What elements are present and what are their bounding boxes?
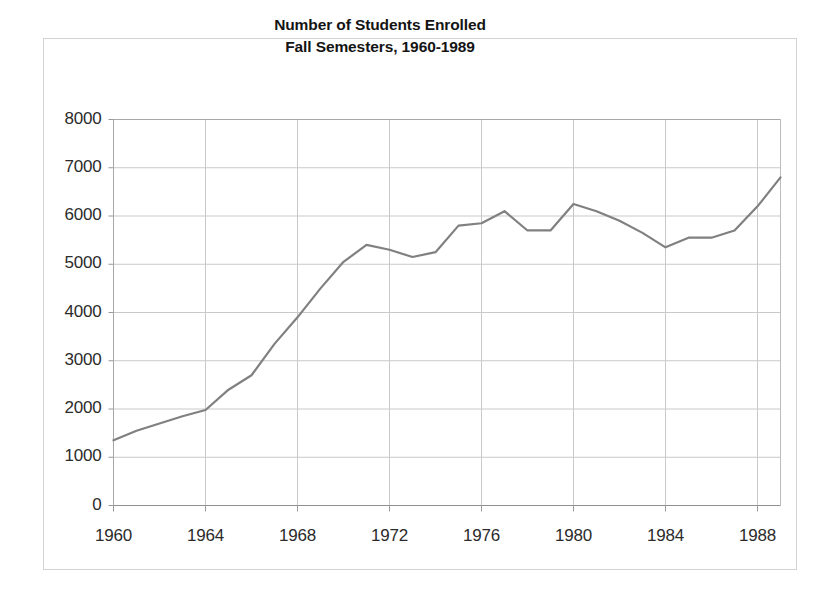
y-tick-label: 5000 <box>40 253 102 273</box>
y-tick-label: 0 <box>40 495 102 515</box>
x-tick-label: 1968 <box>263 526 333 546</box>
y-tick-label: 3000 <box>40 350 102 370</box>
x-tick-label: 1984 <box>631 526 701 546</box>
x-tick-label: 1964 <box>171 526 241 546</box>
y-tick-label: 8000 <box>40 109 102 129</box>
y-tick-label: 2000 <box>40 398 102 418</box>
x-tick-label: 1960 <box>79 526 149 546</box>
data-line-students-enrolled <box>114 177 781 440</box>
horizontal-gridlines <box>114 120 781 506</box>
y-tick-label: 4000 <box>40 302 102 322</box>
y-tick-label: 1000 <box>40 446 102 466</box>
chart-figure: Number of Students Enrolled Fall Semeste… <box>0 0 835 609</box>
plot-area <box>0 0 835 609</box>
x-tick-label: 1972 <box>355 526 425 546</box>
x-tick-label: 1988 <box>723 526 793 546</box>
x-tick-label: 1980 <box>539 526 609 546</box>
y-tick-label: 7000 <box>40 157 102 177</box>
x-tick-label: 1976 <box>447 526 517 546</box>
y-tick-label: 6000 <box>40 205 102 225</box>
